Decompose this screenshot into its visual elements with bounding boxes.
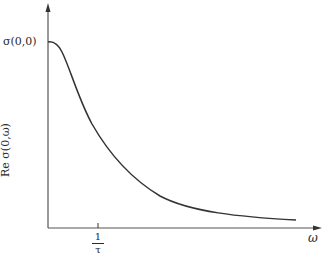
x-tick-denominator: τ — [95, 244, 101, 255]
y-axis-arrow-icon — [46, 3, 51, 12]
x-axis-arrow-icon — [313, 226, 322, 231]
y-axis-title: Re σ(0,ω) — [0, 123, 12, 177]
y-value-label-sigma00: σ(0,0) — [3, 35, 37, 48]
x-tick-numerator: 1 — [95, 231, 101, 242]
x-axis-title: ω — [308, 231, 318, 245]
re-sigma-curve — [48, 42, 296, 220]
x-tick-label-inv-tau: 1 τ — [92, 232, 104, 255]
plot-area — [0, 0, 328, 256]
